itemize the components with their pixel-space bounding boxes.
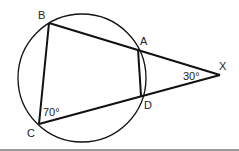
label-C: C	[27, 127, 35, 139]
label-B: B	[38, 9, 45, 21]
segment-CX	[39, 75, 220, 124]
bottom-rule	[0, 149, 239, 151]
label-D: D	[144, 99, 152, 111]
segment-AD	[138, 49, 141, 96]
segment-BX	[49, 23, 220, 75]
diagram-canvas: B A X D C 70° 30°	[0, 0, 239, 151]
angle-X-label: 30°	[183, 70, 200, 82]
angle-C-label: 70°	[43, 106, 60, 118]
label-A: A	[140, 35, 148, 47]
label-X: X	[219, 60, 227, 72]
geometry-diagram: B A X D C 70° 30°	[0, 0, 239, 151]
